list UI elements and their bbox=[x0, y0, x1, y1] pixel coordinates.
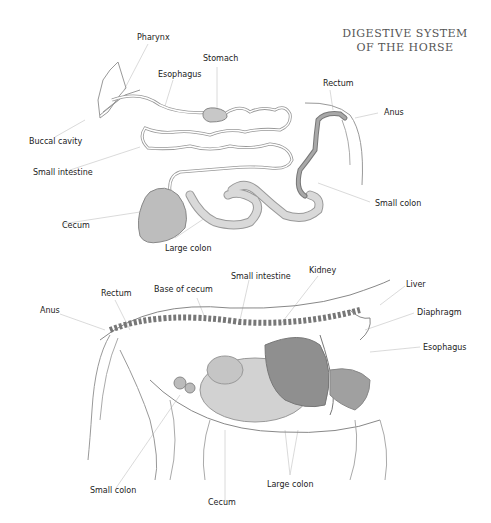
label-esophagus: Esophagus bbox=[158, 70, 201, 79]
label-anus: Anus bbox=[384, 108, 404, 117]
label-stomach: Stomach bbox=[203, 54, 238, 63]
label-small-intestine-lower: Small intestine bbox=[231, 272, 291, 281]
label-pharynx: Pharynx bbox=[137, 33, 170, 42]
label-large-colon-lower: Large colon bbox=[267, 480, 314, 489]
label-anus-lower: Anus bbox=[40, 306, 60, 315]
label-cecum: Cecum bbox=[62, 221, 90, 230]
label-esophagus-lower: Esophagus bbox=[423, 343, 466, 352]
label-base-of-cecum: Base of cecum bbox=[154, 285, 213, 294]
label-rectum-lower: Rectum bbox=[101, 289, 132, 298]
label-kidney: Kidney bbox=[309, 266, 336, 275]
top-leader-lines bbox=[55, 44, 378, 238]
label-small-intestine: Small intestine bbox=[33, 168, 93, 177]
label-buccal-cavity: Buccal cavity bbox=[29, 137, 82, 146]
label-diaphragm: Diaphragm bbox=[417, 308, 462, 317]
top-tract-diagram bbox=[55, 44, 378, 243]
label-cecum-lower: Cecum bbox=[208, 498, 236, 507]
label-rectum: Rectum bbox=[323, 79, 354, 88]
label-liver: Liver bbox=[406, 280, 426, 289]
digestive-illustration bbox=[0, 0, 491, 523]
label-small-colon-lower: Small colon bbox=[90, 486, 136, 495]
label-large-colon: Large colon bbox=[165, 244, 212, 253]
horse-body-diagram bbox=[60, 276, 420, 502]
label-small-colon: Small colon bbox=[375, 199, 421, 208]
